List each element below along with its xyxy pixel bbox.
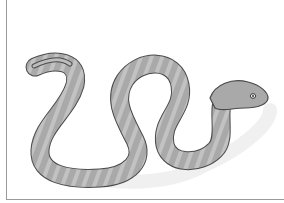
- snake-head: [210, 81, 268, 110]
- snake-illustration: [0, 0, 284, 203]
- snake-body: [35, 62, 225, 178]
